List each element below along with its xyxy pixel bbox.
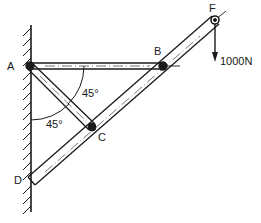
label-A: A [7, 61, 14, 72]
joint-A [26, 62, 34, 70]
joint-C [88, 123, 96, 131]
frame-diagram [0, 0, 261, 223]
load-label: 1000N [220, 56, 252, 67]
angle-label-upper: 45° [82, 88, 99, 99]
angle-label-lower: 45° [46, 119, 63, 130]
joint-B [159, 62, 167, 70]
label-D: D [14, 175, 22, 186]
wall-support [23, 25, 31, 214]
label-C: C [98, 132, 106, 143]
joint-F-pin [214, 19, 217, 22]
joints [26, 16, 219, 131]
arrow-down-icon [212, 52, 218, 62]
label-B: B [154, 46, 161, 57]
label-F: F [209, 3, 216, 14]
